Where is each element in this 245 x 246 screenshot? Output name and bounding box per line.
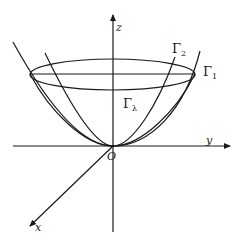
z-axis-label: z — [115, 21, 122, 34]
svg-text:1: 1 — [212, 72, 217, 81]
curve-gamma-1 — [13, 42, 200, 146]
label-gamma-2: Γ 2 — [172, 41, 186, 58]
svg-text:Γ: Γ — [203, 64, 212, 79]
svg-text:Γ: Γ — [123, 96, 132, 111]
x-axis — [30, 146, 113, 226]
label-gamma-1: Γ 1 — [203, 64, 217, 81]
origin-label: O — [107, 150, 116, 163]
x-axis-label: x — [35, 221, 42, 234]
svg-text:λ: λ — [132, 104, 137, 113]
curve-gamma-2 — [45, 53, 175, 146]
y-axis-label: y — [205, 134, 213, 147]
diagram-canvas: z y x O Γ 2 Γ 1 Γ λ — [0, 0, 245, 246]
svg-text:Γ: Γ — [172, 41, 181, 56]
svg-text:2: 2 — [181, 49, 186, 58]
label-gamma-lambda: Γ λ — [123, 96, 137, 113]
